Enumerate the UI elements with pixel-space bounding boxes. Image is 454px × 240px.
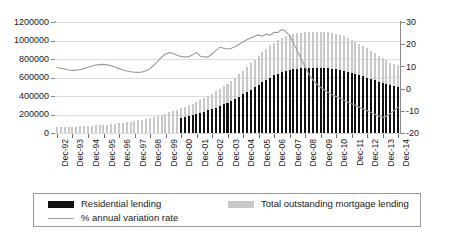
x-tick — [259, 134, 260, 138]
x-tick-label: Dec-04 — [247, 139, 256, 185]
legend-item-total-outstanding: Total outstanding mortgage lending — [228, 199, 409, 209]
y-tick-left — [51, 133, 55, 134]
x-tick — [305, 134, 306, 138]
x-tick — [398, 134, 399, 138]
x-tick-label: Dec-13 — [387, 139, 396, 185]
legend-item-variation-rate: % annual variation rate — [48, 213, 178, 223]
legend-swatch-line-icon — [48, 215, 74, 222]
x-tick — [336, 134, 337, 138]
y-tick-left — [51, 22, 55, 23]
y-tick-left — [51, 96, 55, 97]
x-tick-label: Dec-97 — [139, 139, 148, 185]
x-tick — [274, 134, 275, 138]
x-tick-label: Dec-93 — [76, 139, 85, 185]
x-tick-label: Dec-92 — [61, 139, 70, 185]
x-tick-label: Dec-14 — [402, 139, 411, 185]
x-tick — [321, 134, 322, 138]
y-tick-right — [400, 66, 405, 67]
x-tick-label: Dec-06 — [278, 139, 287, 185]
x-tick — [197, 134, 198, 138]
x-tick — [72, 134, 73, 138]
x-tick — [228, 134, 229, 138]
legend-label-variation-rate: % annual variation rate — [81, 213, 178, 223]
x-tick-label: Dec-02 — [216, 139, 225, 185]
y-tick-left — [51, 59, 55, 60]
x-tick — [290, 134, 291, 138]
y-tick-right — [400, 44, 405, 45]
x-tick — [166, 134, 167, 138]
x-tick — [367, 134, 368, 138]
chart-screenshot: 1200000 1000000 800000 600000 400000 200… — [0, 0, 454, 240]
chart-plot-wrapper: 1200000 1000000 800000 600000 400000 200… — [0, 0, 454, 190]
y-tick-right — [400, 22, 405, 23]
y-tick-right — [400, 89, 405, 90]
y-tick-right — [400, 133, 405, 134]
legend-label-total-outstanding: Total outstanding mortgage lending — [261, 199, 409, 209]
x-tick — [119, 134, 120, 138]
x-tick — [57, 134, 58, 138]
x-tick-label: Dec-07 — [294, 139, 303, 185]
x-tick-label: Dec-10 — [340, 139, 349, 185]
y-tick-left — [51, 41, 55, 42]
chart-legend: Residential lending Total outstanding mo… — [33, 193, 421, 227]
x-tick-label: Dec-11 — [356, 139, 365, 185]
x-tick-label: Dec-09 — [325, 139, 334, 185]
legend-swatch-black-icon — [48, 201, 74, 208]
y-tick-left — [51, 78, 55, 79]
legend-label-residential-lending: Residential lending — [81, 199, 161, 209]
x-axis-labels: Dec-92Dec-93Dec-94Dec-95Dec-96Dec-97Dec-… — [0, 0, 454, 190]
x-tick-label: Dec-01 — [201, 139, 210, 185]
x-tick-label: Dec-94 — [92, 139, 101, 185]
y-tick-right — [400, 111, 405, 112]
x-tick — [88, 134, 89, 138]
x-tick-label: Dec-12 — [371, 139, 380, 185]
legend-item-residential-lending: Residential lending — [48, 199, 161, 209]
x-tick — [135, 134, 136, 138]
x-tick — [104, 134, 105, 138]
x-tick — [243, 134, 244, 138]
x-tick-label: Dec-08 — [309, 139, 318, 185]
x-tick-label: Dec-03 — [232, 139, 241, 185]
x-tick-label: Dec-96 — [123, 139, 132, 185]
x-tick-label: Dec-99 — [170, 139, 179, 185]
x-tick — [383, 134, 384, 138]
x-tick — [150, 134, 151, 138]
x-tick — [352, 134, 353, 138]
x-tick — [212, 134, 213, 138]
x-tick — [181, 134, 182, 138]
x-tick-label: Dec-98 — [154, 139, 163, 185]
y-tick-left — [51, 115, 55, 116]
x-tick-label: Dec-05 — [263, 139, 272, 185]
x-tick-label: Dec-00 — [185, 139, 194, 185]
x-tick-label: Dec-95 — [108, 139, 117, 185]
legend-swatch-gray-icon — [228, 201, 254, 208]
